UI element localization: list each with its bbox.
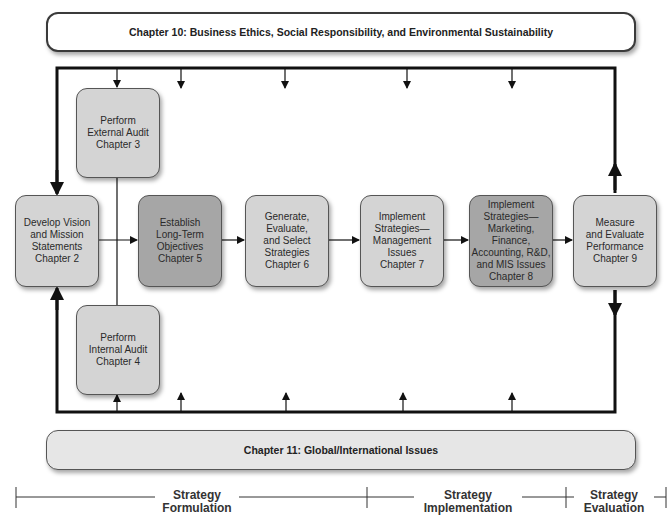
chapter-11-banner: Chapter 11: Global/International Issues [46, 430, 636, 470]
timeline-implementation: Strategy Implementation [414, 489, 522, 515]
vision-mission-label: Develop Vision and Mission Statements Ch… [24, 217, 91, 265]
implement-management-box: Implement Strategies— Management Issues … [360, 195, 444, 287]
chapter-11-label: Chapter 11: Global/International Issues [244, 444, 438, 456]
vision-mission-box: Develop Vision and Mission Statements Ch… [15, 195, 99, 287]
internal-audit-label: Perform Internal Audit Chapter 4 [89, 332, 147, 368]
generate-strategies-label: Generate, Evaluate, and Select Strategie… [263, 211, 310, 271]
timeline-evaluation: Strategy Evaluation [574, 489, 654, 515]
measure-evaluate-box: Measure and Evaluate Performance Chapter… [573, 195, 657, 287]
internal-audit-box: Perform Internal Audit Chapter 4 [76, 305, 160, 395]
timeline-formulation: Strategy Formulation [155, 489, 239, 515]
external-audit-label: Perform External Audit Chapter 3 [87, 115, 149, 151]
implement-marketing-box: Implement Strategies— Marketing, Finance… [469, 195, 553, 287]
objectives-label: Establish Long-Term Objectives Chapter 5 [156, 217, 204, 265]
generate-strategies-box: Generate, Evaluate, and Select Strategie… [245, 195, 329, 287]
objectives-box: Establish Long-Term Objectives Chapter 5 [138, 195, 222, 287]
implement-marketing-label: Implement Strategies— Marketing, Finance… [472, 199, 551, 283]
measure-evaluate-label: Measure and Evaluate Performance Chapter… [586, 217, 644, 265]
implement-management-label: Implement Strategies— Management Issues … [373, 211, 431, 271]
external-audit-box: Perform External Audit Chapter 3 [76, 88, 160, 178]
